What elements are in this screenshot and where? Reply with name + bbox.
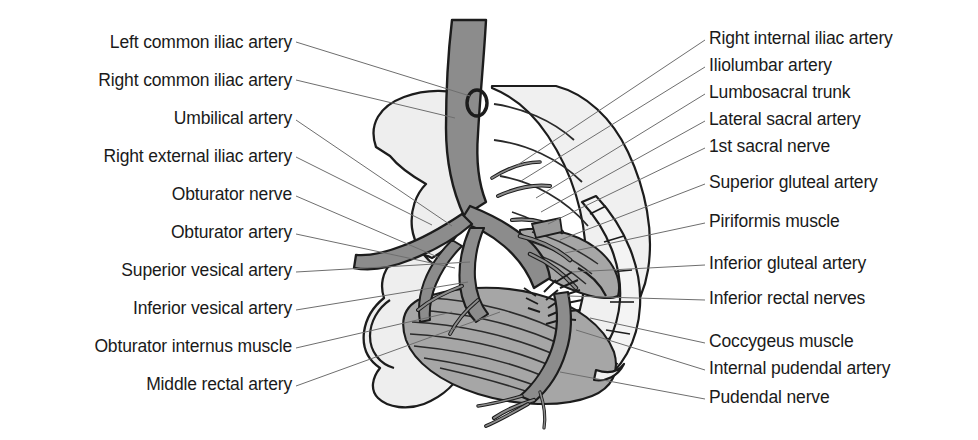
label-pudendal-nerve: Pudendal nerve <box>709 389 830 407</box>
label-right-external-iliac-artery: Right external iliac artery <box>103 148 292 166</box>
label-internal-pudendal-artery: Internal pudendal artery <box>709 360 890 378</box>
label-obturator-nerve: Obturator nerve <box>172 186 292 204</box>
label-left-common-iliac-artery: Left common iliac artery <box>110 34 292 52</box>
common-iliac-arteries <box>446 20 487 216</box>
label-umbilical-artery: Umbilical artery <box>174 110 292 128</box>
label-middle-rectal-artery: Middle rectal artery <box>146 376 292 394</box>
label-lateral-sacral-artery: Lateral sacral artery <box>709 111 861 129</box>
label-iliolumbar-artery: Iliolumbar artery <box>709 57 832 75</box>
label-obturator-internus-muscle: Obturator internus muscle <box>94 338 292 356</box>
label-piriformis-muscle: Piriformis muscle <box>709 213 840 231</box>
label-right-internal-iliac-artery: Right internal iliac artery <box>709 30 893 48</box>
label-coccygeus-muscle: Coccygeus muscle <box>709 333 853 351</box>
label-inferior-gluteal-artery: Inferior gluteal artery <box>709 255 866 273</box>
label-inferior-rectal-nerves: Inferior rectal nerves <box>709 290 865 308</box>
label-superior-gluteal-artery: Superior gluteal artery <box>709 174 878 192</box>
label-right-common-iliac-artery: Right common iliac artery <box>98 72 292 90</box>
label-1st-sacral-nerve: 1st sacral nerve <box>709 138 830 156</box>
label-obturator-artery: Obturator artery <box>171 224 292 242</box>
pelvic-anatomy-figure: Left common iliac arteryRight common ili… <box>0 0 978 440</box>
label-superior-vesical-artery: Superior vesical artery <box>121 262 292 280</box>
label-inferior-vesical-artery: Inferior vesical artery <box>133 300 292 318</box>
label-lumbosacral-trunk: Lumbosacral trunk <box>709 84 850 102</box>
